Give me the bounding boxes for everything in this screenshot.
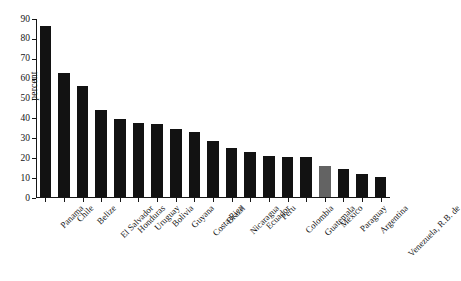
x-tick [101, 198, 102, 202]
y-tick-label: 80 [21, 32, 31, 44]
x-tick [213, 198, 214, 202]
x-tick [83, 198, 84, 202]
x-tick [45, 198, 46, 202]
bar[interactable] [338, 169, 350, 197]
y-tick-label: 50 [21, 92, 31, 104]
y-tick: 80 [32, 39, 36, 40]
y-tick-label: 60 [21, 72, 31, 84]
bar[interactable] [133, 123, 145, 197]
x-tick-label-text: Brazil [224, 203, 247, 226]
y-tick-label: 70 [21, 52, 31, 64]
x-tick [176, 198, 177, 202]
bar[interactable] [319, 166, 331, 197]
bar[interactable] [356, 174, 368, 197]
x-tick [157, 198, 158, 202]
x-tick [64, 198, 65, 202]
y-tick-label: 40 [21, 112, 31, 124]
x-tick-label: Belize [94, 203, 117, 226]
y-tick: 30 [32, 138, 36, 139]
bar[interactable] [263, 156, 275, 197]
x-tick-label-text: Belize [94, 203, 117, 226]
bar[interactable] [375, 177, 387, 197]
x-tick [269, 198, 270, 202]
bar[interactable] [114, 119, 126, 197]
bar[interactable] [151, 124, 163, 197]
y-tick: 40 [32, 118, 36, 119]
bar[interactable] [244, 152, 256, 197]
y-tick: 90 [32, 19, 36, 20]
x-tick [120, 198, 121, 202]
plot-area: 0102030405060708090 [36, 19, 390, 198]
y-tick-label: 0 [25, 192, 30, 204]
bar[interactable] [77, 86, 89, 197]
y-tick: 20 [32, 158, 36, 159]
y-tick: 70 [32, 59, 36, 60]
y-tick: 50 [32, 99, 36, 100]
bar[interactable] [189, 132, 201, 197]
bar[interactable] [282, 157, 294, 197]
x-tick [250, 198, 251, 202]
bar[interactable] [226, 148, 238, 197]
y-tick: 10 [32, 178, 36, 179]
bar[interactable] [207, 141, 219, 197]
bar[interactable] [40, 26, 52, 197]
x-tick-label: Brazil [224, 203, 247, 226]
y-tick-label: 10 [21, 172, 31, 184]
x-tick [362, 198, 363, 202]
x-tick [306, 198, 307, 202]
x-tick [288, 198, 289, 202]
x-tick [343, 198, 344, 202]
x-tick [325, 198, 326, 202]
bar[interactable] [95, 110, 107, 197]
y-tick: 0 [32, 198, 36, 199]
y-tick-label: 30 [21, 132, 31, 144]
x-tick [194, 198, 195, 202]
x-tick [232, 198, 233, 202]
y-tick-label: 20 [21, 152, 31, 164]
y-tick: 60 [32, 79, 36, 80]
bar[interactable] [58, 73, 70, 197]
y-tick-label: 90 [21, 13, 31, 25]
x-tick-label-text: Venezuela, R.B. de [406, 203, 461, 259]
y-axis-line [36, 19, 37, 198]
bar[interactable] [300, 157, 312, 197]
x-tick-label: Venezuela, R.B. de [406, 203, 461, 259]
x-tick [138, 198, 139, 202]
bar[interactable] [170, 129, 182, 197]
